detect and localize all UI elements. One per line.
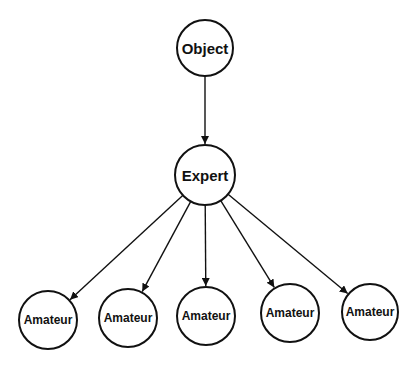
node-amateur2: Amateur (99, 289, 157, 347)
nodes-layer: ObjectExpertAmateurAmateurAmateurAmateur… (19, 20, 398, 349)
node-label: Amateur (346, 305, 395, 319)
edge-expert-to-amateur2 (142, 201, 191, 291)
node-label: Amateur (24, 313, 73, 327)
edge-expert-to-amateur5 (228, 194, 348, 293)
node-object: Object (177, 20, 233, 76)
node-amateur1: Amateur (19, 291, 77, 349)
node-label: Object (182, 40, 229, 57)
node-label: Expert (182, 167, 229, 184)
node-expert: Expert (175, 145, 235, 205)
node-label: Amateur (182, 309, 231, 323)
node-label: Amateur (104, 311, 153, 325)
node-label: Amateur (266, 306, 315, 320)
node-amateur4: Amateur (261, 284, 319, 342)
tree-diagram: ObjectExpertAmateurAmateurAmateurAmateur… (0, 0, 418, 366)
node-amateur3: Amateur (177, 287, 235, 345)
edge-expert-to-amateur3 (205, 205, 206, 286)
node-amateur5: Amateur (342, 284, 398, 340)
edge-expert-to-amateur4 (221, 201, 275, 288)
